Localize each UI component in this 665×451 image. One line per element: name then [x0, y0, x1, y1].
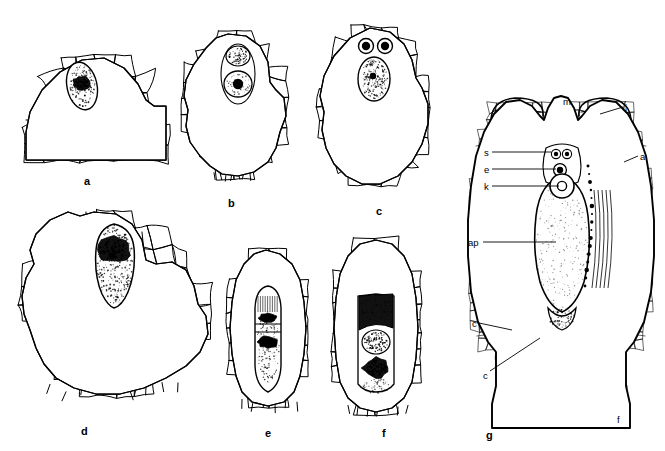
panel-a-label: a: [84, 176, 90, 187]
panel-f-label: f: [382, 428, 386, 439]
panel-g-label-f: f: [617, 415, 620, 425]
panel-b-label: b: [228, 198, 235, 209]
panel-f: [326, 236, 428, 418]
panel-g-label: g: [486, 430, 493, 441]
panel-g-label-m: m: [563, 97, 571, 107]
panel-d-label: d: [81, 426, 88, 437]
panel-g-label-k: k: [484, 182, 489, 192]
panel-g: [462, 86, 660, 428]
panel-e: [222, 246, 314, 416]
panel-g-label-s: s: [484, 148, 489, 158]
panel-g-label-e: e: [484, 165, 489, 175]
panel-g-label-i: i: [625, 103, 627, 113]
panel-b: [176, 30, 296, 192]
panel-a: [20, 28, 172, 174]
panel-e-drawing: [222, 246, 314, 416]
panel-g-label-a: a: [640, 152, 645, 162]
figure-plate: a b c d e: [0, 0, 665, 451]
panel-g-label-ap: ap: [468, 238, 479, 248]
panel-g-label-c1: c: [472, 319, 477, 329]
panel-c-label: c: [376, 206, 382, 217]
panel-e-label: e: [265, 428, 271, 439]
panel-b-drawing: [176, 30, 296, 192]
panel-d-drawing: [16, 206, 218, 413]
panel-g-label-c2: c: [483, 371, 488, 381]
panel-f-drawing: [326, 236, 428, 418]
panel-c-drawing: [310, 24, 440, 198]
panel-g-drawing: [462, 86, 660, 428]
panel-c: [310, 24, 440, 198]
panel-d: [16, 206, 218, 413]
panel-a-drawing: [20, 28, 172, 174]
